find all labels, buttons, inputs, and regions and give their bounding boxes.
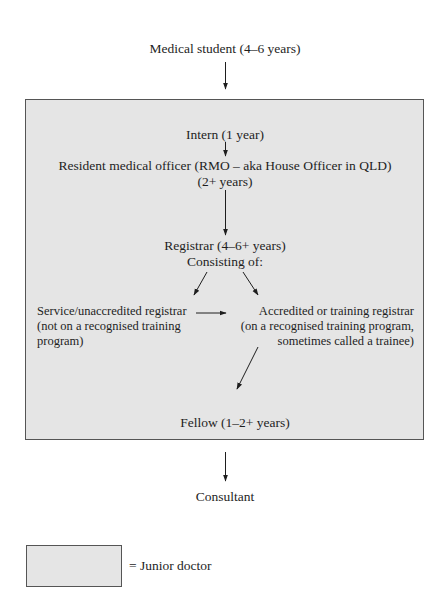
node-service-registrar-line2: (not on a recognised training [37, 319, 181, 334]
node-registrar-line1: Registrar (4–6+ years) [164, 238, 286, 253]
node-fellow: Fellow (1–2+ years) [180, 415, 290, 430]
node-intern: Intern (1 year) [186, 127, 264, 142]
legend-swatch [26, 545, 122, 587]
node-accredited-registrar-line3: sometimes called a trainee) [278, 334, 414, 349]
node-rmo-line2: (2+ years) [197, 174, 252, 189]
node-registrar-line2: Consisting of: [187, 254, 263, 269]
node-service-registrar-line3: program) [37, 334, 84, 349]
legend-label: = Junior doctor [129, 558, 212, 573]
node-rmo-line1: Resident medical officer (RMO – aka Hous… [59, 158, 392, 173]
node-service-registrar-line1: Service/unaccredited registrar [37, 304, 187, 319]
node-accredited-registrar-line2: (on a recognised training program, [241, 319, 414, 334]
node-accredited-registrar-line1: Accredited or training registrar [259, 304, 414, 319]
junior-doctor-group-box [25, 99, 424, 440]
node-medical-student: Medical student (4–6 years) [149, 41, 300, 56]
node-consultant: Consultant [196, 489, 255, 504]
